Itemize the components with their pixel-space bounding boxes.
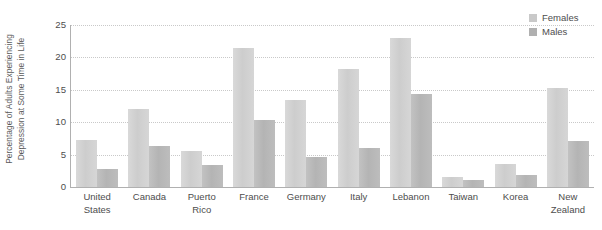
legend-label: Males: [542, 26, 567, 37]
x-tick-label: Lebanon: [385, 191, 437, 204]
bar-males: [516, 175, 537, 187]
legend: FemalesMales: [529, 11, 599, 39]
x-tick-label: Taiwan: [437, 191, 489, 204]
legend-swatch-icon: [529, 28, 537, 36]
bar-males: [202, 165, 223, 187]
legend-item-females[interactable]: Females: [529, 11, 599, 24]
bar-females: [181, 151, 202, 187]
bar-group: [442, 25, 484, 187]
bar-males: [149, 146, 170, 187]
legend-swatch-icon: [529, 14, 537, 22]
bar-group: [338, 25, 380, 187]
y-tick-label: 20: [40, 51, 66, 62]
bar-females: [128, 109, 149, 187]
plot-area: [70, 25, 594, 188]
bar-females: [495, 164, 516, 187]
x-tick-label: Puerto Rico: [176, 191, 228, 216]
bar-females: [547, 88, 568, 187]
bar-females: [233, 48, 254, 187]
bar-males: [359, 148, 380, 187]
y-tick-label: 0: [40, 181, 66, 192]
bar-group: [547, 25, 589, 187]
bar-females: [76, 140, 97, 187]
x-tick-label: United States: [71, 191, 123, 216]
bar-males: [411, 94, 432, 187]
legend-label: Females: [542, 12, 578, 23]
y-tick-label: 5: [40, 149, 66, 160]
x-tick-label: Canada: [123, 191, 175, 204]
x-tick-label: Korea: [489, 191, 541, 204]
bar-group: [390, 25, 432, 187]
bar-females: [442, 177, 463, 187]
y-tick-label: 15: [40, 84, 66, 95]
legend-item-males[interactable]: Males: [529, 25, 599, 38]
bar-group: [495, 25, 537, 187]
y-tick-label: 25: [40, 19, 66, 30]
bar-females: [338, 69, 359, 187]
bars-layer: [71, 25, 594, 187]
bar-males: [306, 157, 327, 187]
y-axis-title: Percentage of Adults Experiencing Depres…: [4, 9, 34, 189]
y-tick-label: 10: [40, 116, 66, 127]
bar-group: [285, 25, 327, 187]
x-tick-label: France: [228, 191, 280, 204]
bar-group: [233, 25, 275, 187]
x-axis-line: [70, 187, 594, 188]
bar-group: [128, 25, 170, 187]
bar-group: [76, 25, 118, 187]
x-tick-label: Italy: [333, 191, 385, 204]
bar-males: [463, 180, 484, 187]
x-tick-label: New Zealand: [542, 191, 594, 216]
x-axis-tick-labels: United StatesCanadaPuerto RicoFranceGerm…: [71, 191, 594, 230]
bar-females: [285, 100, 306, 187]
y-axis-tick-labels: 0510152025: [36, 0, 66, 230]
bar-males: [97, 169, 118, 187]
bar-chart: Percentage of Adults Experiencing Depres…: [0, 0, 602, 230]
bar-females: [390, 38, 411, 187]
x-tick-label: Germany: [280, 191, 332, 204]
bar-males: [568, 141, 589, 187]
bar-males: [254, 120, 275, 187]
bar-group: [181, 25, 223, 187]
